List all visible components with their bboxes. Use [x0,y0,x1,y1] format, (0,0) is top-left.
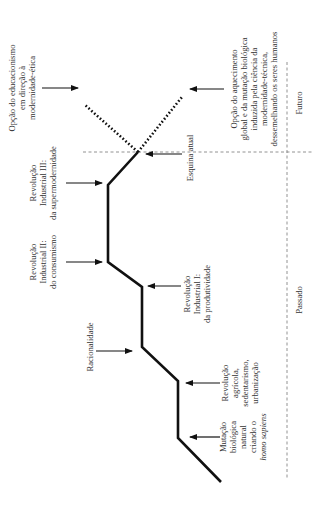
svg-text:Industrial III:: Industrial III: [38,160,48,206]
label-esquina-atual: Esquina atual [185,134,195,181]
svg-text:Opção do educacionismo: Opção do educacionismo [7,45,17,132]
svg-text:Racionalidade: Racionalidade [85,322,95,371]
label-rev-ind-2: Revolução Industrial II: do consumismo [28,235,58,289]
label-rev-agricola: Revolução agrícola, sedentarismo, urbani… [220,359,260,407]
label-racionalidade: Racionalidade [85,322,95,371]
svg-text:Passado: Passado [294,286,304,314]
svg-text:Futuro: Futuro [294,92,304,115]
label-rev-ind-3: Revolução Industrial III: da supermodern… [28,146,58,220]
svg-text:urbanização: urbanização [250,362,260,404]
svg-text:criando o: criando o [248,421,258,453]
label-aquecimento: Opção do aquecimento global e da mutação… [229,31,279,146]
svg-text:Revolução: Revolução [182,276,192,313]
svg-text:Opção do aquecimento: Opção do aquecimento [229,49,239,128]
timeline-diagram: Opção do educacionismo em direção à mode… [0,0,315,507]
svg-text:Revolução: Revolução [28,244,38,281]
svg-text:em direção à: em direção à [17,66,27,110]
svg-text:da produtividade: da produtividade [202,265,212,323]
svg-text:Industrial I:: Industrial I: [192,274,202,314]
label-educacionismo: Opção do educacionismo em direção à mode… [7,45,37,132]
label-futuro: Futuro [294,92,304,115]
technical-option-path [138,97,182,152]
label-mutacao: Mutação biológica natural criando o homo… [218,413,268,461]
svg-text:agrícola,: agrícola, [230,368,240,398]
svg-text:global e da mutação biológica: global e da mutação biológica [239,37,249,140]
svg-text:Esquina atual: Esquina atual [185,134,195,181]
svg-text:do consumismo: do consumismo [48,235,58,289]
label-rev-ind-1: Revolução Industrial I: da produtividade [182,265,212,323]
svg-text:modernidade-ética: modernidade-ética [27,56,37,120]
svg-text:Revolução: Revolução [28,165,38,202]
svg-text:induzida pela ciência da: induzida pela ciência da [249,47,259,130]
ethics-option-path [85,105,138,152]
svg-text:Industrial II:: Industrial II: [38,240,48,283]
svg-text:modernidade-técnica,: modernidade-técnica, [259,52,269,126]
svg-text:da supermodernidade: da supermodernidade [48,146,58,220]
svg-text:Revolução: Revolução [220,365,230,402]
svg-text:sedentarismo,: sedentarismo, [240,359,250,407]
svg-text:homo sapiens: homo sapiens [258,413,268,461]
svg-text:natural: natural [238,424,248,448]
label-passado: Passado [294,286,304,314]
svg-text:dessemelhando os seres humanos: dessemelhando os seres humanos [269,31,279,146]
svg-text:biológica: biológica [228,421,238,453]
svg-text:Mutação: Mutação [218,422,228,452]
